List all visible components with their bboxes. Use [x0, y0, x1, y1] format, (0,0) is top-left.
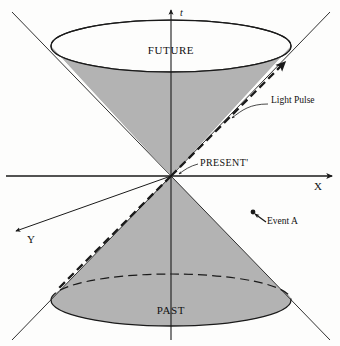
light-pulse-label: Light Pulse — [271, 95, 315, 105]
present-label: PRESENT' — [200, 157, 248, 168]
time-axis-label: t — [180, 7, 183, 18]
light-cone-diagram: Light Pulse PRESENT' Event A t X Y FUTUR… — [0, 0, 340, 346]
event-a-group: Event A — [251, 210, 298, 226]
event-a-label: Event A — [267, 216, 298, 226]
x-axis-label: X — [314, 180, 322, 192]
light-cone-figure: Light Pulse PRESENT' Event A t X Y FUTUR… — [0, 0, 340, 346]
future-region-label: FUTURE — [148, 44, 194, 56]
y-axis-label: Y — [27, 233, 35, 245]
event-a-point — [251, 210, 256, 215]
past-region-label: PAST — [157, 304, 185, 316]
event-a-leader — [255, 214, 266, 222]
